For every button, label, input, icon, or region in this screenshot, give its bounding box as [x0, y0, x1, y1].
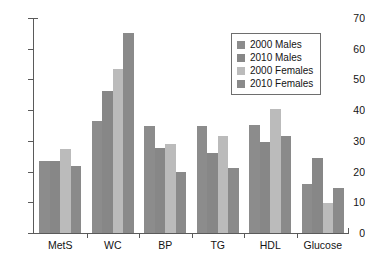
bar: [113, 69, 124, 233]
square-swatch-icon: [237, 54, 245, 62]
bar: [176, 172, 187, 233]
y-axis-tick: [28, 18, 33, 19]
y-axis-tick: [28, 172, 33, 173]
y-axis-tick: [28, 79, 33, 80]
bar-group: [92, 18, 134, 233]
x-axis-tick: [192, 233, 193, 238]
bar: [60, 149, 71, 233]
bar-chart: 010203040506070 MetSWCBPTGHDLGlucose 200…: [0, 0, 365, 271]
x-axis-label-glucose: Glucose: [297, 239, 350, 251]
bar: [270, 109, 281, 233]
bar: [39, 161, 50, 233]
x-axis-tick: [87, 233, 88, 238]
bar: [197, 126, 208, 233]
x-axis-tick: [244, 233, 245, 238]
bar: [50, 161, 61, 233]
bar-group: [39, 18, 81, 233]
bar: [323, 203, 334, 233]
bar: [92, 121, 103, 233]
legend-item[interactable]: 2000 Males: [237, 38, 313, 51]
legend-item-label: 2000 Females: [250, 66, 313, 76]
bar: [249, 125, 260, 233]
square-swatch-icon: [237, 67, 245, 75]
legend-item[interactable]: 2000 Females: [237, 64, 313, 77]
y-axis-tick: [28, 49, 33, 50]
square-swatch-icon: [237, 41, 245, 49]
y-axis-tick: [28, 202, 33, 203]
legend-item-label: 2000 Males: [250, 40, 302, 50]
x-axis-label-bp: BP: [139, 239, 192, 251]
x-axis-label-hdl: HDL: [244, 239, 297, 251]
bar: [155, 148, 166, 233]
legend-item[interactable]: 2010 Males: [237, 51, 313, 64]
x-axis-label-wc: WC: [87, 239, 140, 251]
x-axis-label-mets: MetS: [34, 239, 87, 251]
y-axis-tick: [28, 141, 33, 142]
bar-group: [144, 18, 186, 233]
square-swatch-icon: [237, 80, 245, 88]
y-axis-tick: [28, 110, 33, 111]
x-axis-tick: [139, 233, 140, 238]
chart-legend: 2000 Males2010 Males2000 Females2010 Fem…: [231, 33, 321, 95]
bar: [312, 158, 323, 233]
y-axis-tick: [28, 233, 33, 234]
bar: [260, 142, 271, 233]
bar: [144, 126, 155, 233]
bar: [228, 168, 239, 233]
bar: [218, 136, 229, 233]
x-axis-label-tg: TG: [192, 239, 245, 251]
bar: [165, 144, 176, 233]
bar: [333, 188, 344, 233]
legend-item[interactable]: 2010 Females: [237, 77, 313, 90]
bar: [281, 136, 292, 233]
bar: [123, 33, 134, 233]
legend-item-label: 2010 Males: [250, 53, 302, 63]
x-axis-tick: [297, 233, 298, 238]
bar: [71, 166, 82, 233]
bar: [102, 91, 113, 233]
bar: [207, 153, 218, 233]
legend-item-label: 2010 Females: [250, 79, 313, 89]
bar: [302, 184, 313, 233]
